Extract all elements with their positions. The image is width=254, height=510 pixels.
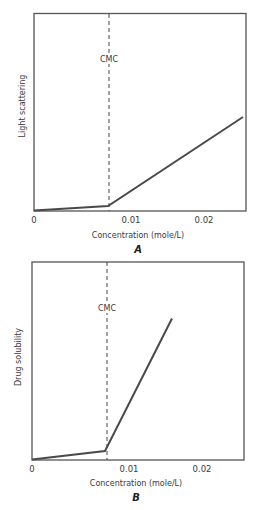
y-axis-label-a: Light scattering <box>18 75 27 138</box>
panel-letter-a: A <box>133 244 142 255</box>
y-axis-label-b: Drug solubility <box>14 328 23 386</box>
x-tick-001-b: 0.01 <box>120 464 139 474</box>
data-line-a <box>34 117 243 211</box>
chart-a: CMC 0 0.01 0.02 Concentration (mole/L) L… <box>18 14 246 256</box>
cmc-label-b: CMC <box>98 304 116 313</box>
x-tick-001-a: 0.01 <box>122 215 141 225</box>
x-tick-002-a: 0.02 <box>195 215 214 225</box>
chart-b: CMC 0 0.01 0.02 Concentration (mole/L) D… <box>14 262 244 503</box>
x-tick-0-b: 0 <box>29 464 34 474</box>
plot-frame-a <box>34 14 246 212</box>
figure: CMC 0 0.01 0.02 Concentration (mole/L) L… <box>0 0 254 510</box>
plot-frame-b <box>32 262 244 460</box>
x-tick-002-b: 0.02 <box>193 464 212 474</box>
x-axis-label-a: Concentration (mole/L) <box>92 231 184 240</box>
x-tick-0-a: 0 <box>31 215 36 225</box>
panel-letter-b: B <box>132 492 140 503</box>
cmc-label-a: CMC <box>100 55 118 64</box>
x-axis-label-b: Concentration (mole/L) <box>90 479 182 488</box>
data-line-b <box>32 319 172 460</box>
